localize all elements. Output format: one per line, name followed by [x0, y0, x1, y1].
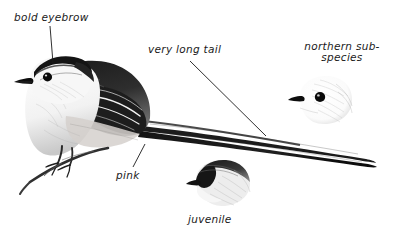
leader-pink — [133, 144, 145, 167]
northern-head-eye — [315, 92, 325, 102]
bird-bill — [14, 78, 33, 84]
northern-subspecies-head-illustration — [288, 76, 352, 124]
leader-very-long-tail — [190, 61, 266, 136]
label-pink: pink — [116, 170, 140, 181]
label-bold-eyebrow: bold eyebrow — [14, 12, 89, 23]
northern-head-bill — [288, 96, 305, 101]
bird-illustration-canvas — [0, 0, 393, 238]
bird-eye — [43, 73, 52, 82]
label-very-long-tail: very long tail — [148, 44, 221, 55]
label-juvenile: juvenile — [188, 214, 232, 225]
label-northern-subspecies-line2: species — [296, 52, 388, 63]
label-northern-subspecies: northern sub-species — [296, 41, 388, 63]
bird-head — [14, 56, 94, 104]
juvenile-head-illustration — [186, 160, 250, 206]
illustration-page: bold eyebrow very long tail northern sub… — [0, 0, 393, 238]
bird-tail — [135, 120, 377, 167]
juvenile-head-bill — [186, 180, 201, 185]
